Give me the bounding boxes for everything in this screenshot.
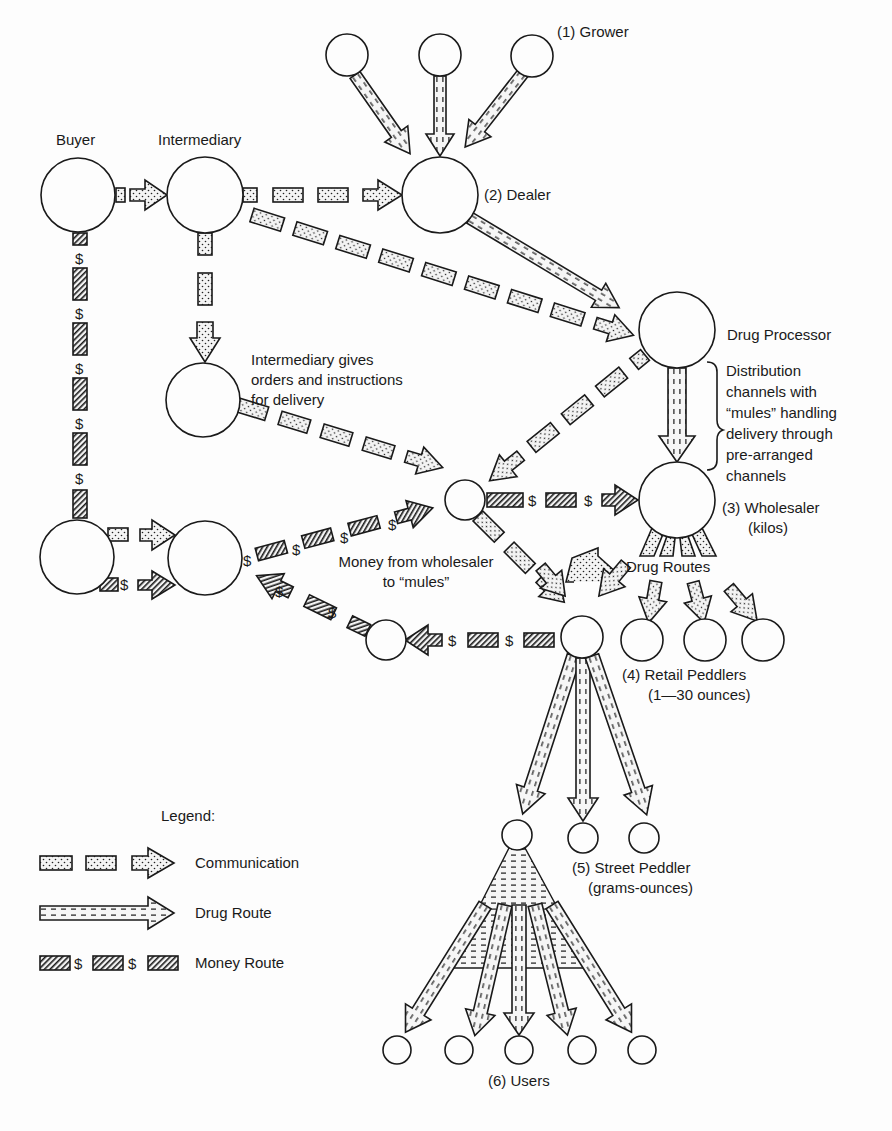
comm-arrow-intermediary-orders xyxy=(190,322,220,362)
dollar-symbol: $ xyxy=(75,415,84,432)
label-grower: (1) Grower xyxy=(557,22,629,42)
drug-arrow-grower3-dealer xyxy=(454,64,534,155)
dollar-symbol: $ xyxy=(75,470,84,487)
label-street-peddler: (5) Street Peddler (grams-ounces) xyxy=(572,858,693,898)
legend-label-drug-route: Drug Route xyxy=(195,903,272,923)
dollar-symbol: $ xyxy=(75,250,84,267)
label-money-note: Money from wholesaler to “mules” xyxy=(316,552,516,592)
dollar-symbol: $ xyxy=(448,632,457,649)
node-dealer xyxy=(402,157,478,233)
label-buyer: Buyer xyxy=(56,130,95,150)
label-intermediary-note: Intermediary gives orders and instructio… xyxy=(251,350,403,410)
node-orders xyxy=(166,363,240,437)
legend-title: Legend: xyxy=(161,806,215,826)
legend-label-money-route: Money Route xyxy=(195,953,284,973)
node-money-collector xyxy=(366,620,406,660)
label-intermediary: Intermediary xyxy=(158,130,241,150)
node-mule xyxy=(445,480,485,520)
label-dealer: (2) Dealer xyxy=(484,185,551,205)
dollar-symbol: $ xyxy=(75,360,84,377)
comm-arrow-buyer-intermediary xyxy=(130,180,167,210)
comm-arrow-intermediary-dealer xyxy=(363,180,402,210)
node-buyer-2 xyxy=(40,520,114,594)
node-user-4 xyxy=(568,1036,596,1064)
label-distribution-note: Distribution channels with “mules” handl… xyxy=(726,360,837,486)
node-street-3 xyxy=(629,823,659,853)
node-retail-hub xyxy=(561,616,603,658)
dollar-symbol: $ xyxy=(388,516,397,533)
node-intermediary xyxy=(167,157,243,233)
label-drug-processor: Drug Processor xyxy=(727,325,831,345)
node-processor xyxy=(639,292,715,368)
label-retail-peddlers: (4) Retail Peddlers (1—30 ounces) xyxy=(622,665,751,705)
node-grower-1 xyxy=(326,34,368,76)
money-arrow-retail-smallnode xyxy=(405,625,442,655)
node-retail-3 xyxy=(684,619,726,661)
node-grower-3 xyxy=(511,35,553,77)
dollar-symbol: $ xyxy=(584,492,593,509)
node-retail-2 xyxy=(621,619,663,661)
diagram-shapes xyxy=(40,34,784,1064)
dollar-symbol: $ xyxy=(292,541,301,558)
drug-arrow-processor-wholesaler xyxy=(659,368,695,462)
drug-arrow-dealer-processor xyxy=(463,206,627,320)
drug-arrow-grower1-dealer xyxy=(344,67,422,162)
node-user-5 xyxy=(628,1036,656,1064)
dollar-symbol: $ xyxy=(243,552,252,569)
legend-label-communication: Communication xyxy=(195,853,299,873)
legend-drug-route-swatch xyxy=(40,897,174,929)
node-street-2 xyxy=(568,823,598,853)
legend-money-route-swatch xyxy=(40,956,178,970)
node-intermediary-2 xyxy=(168,521,242,595)
brace-distribution xyxy=(707,362,723,470)
dollar-symbol: $ xyxy=(340,529,349,546)
dollar-symbol: $ xyxy=(275,583,284,600)
dollar-symbol: $ xyxy=(505,632,514,649)
comm-dashes-processor-mule xyxy=(481,344,654,492)
money-arrow-mule-wholesaler xyxy=(602,485,638,515)
node-grower-2 xyxy=(419,34,461,76)
node-user-3 xyxy=(505,1036,533,1064)
dollar-symbol: $ xyxy=(328,604,337,621)
dollar-symbol: $ xyxy=(528,492,537,509)
node-wholesaler xyxy=(639,462,715,538)
drug-arrow-grower2-dealer xyxy=(426,76,454,156)
dollar-symbol: $ xyxy=(128,955,137,972)
dollar-symbol: $ xyxy=(74,955,83,972)
node-user-1 xyxy=(383,1036,411,1064)
dollar-symbol: $ xyxy=(75,305,84,322)
dollar-symbol: $ xyxy=(120,576,129,593)
node-buyer xyxy=(41,158,115,232)
node-street-1 xyxy=(502,820,532,850)
node-retail-4 xyxy=(742,619,784,661)
label-users: (6) Users xyxy=(488,1071,550,1091)
money-arrow-buyer2-intermediary2 xyxy=(138,571,175,599)
legend-communication-swatch xyxy=(40,848,174,878)
label-drug-routes: Drug Routes xyxy=(626,557,710,577)
label-wholesaler: (3) Wholesaler (kilos) xyxy=(722,498,820,538)
node-user-2 xyxy=(445,1036,473,1064)
